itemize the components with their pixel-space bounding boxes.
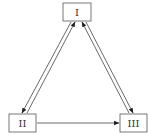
node-III-label: III xyxy=(128,118,140,129)
node-II-label: II xyxy=(19,118,27,129)
edge-I-to-III xyxy=(86,22,133,113)
node-III: III xyxy=(120,114,147,132)
edge-II-to-I xyxy=(27,22,75,113)
node-II: II xyxy=(9,114,36,132)
edge-III-to-I xyxy=(82,22,129,113)
node-I-label: I xyxy=(75,7,79,18)
node-I: I xyxy=(63,3,91,21)
diagram-canvas: I II III xyxy=(0,0,148,140)
edge-I-to-II xyxy=(22,22,71,113)
